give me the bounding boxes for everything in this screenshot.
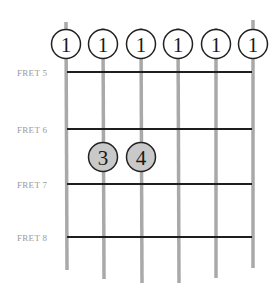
finger-number: 1 <box>173 33 184 57</box>
finger-number: 4 <box>136 146 147 170</box>
finger-marker-4: 4 <box>127 143 156 172</box>
finger-number: 1 <box>98 33 109 57</box>
finger-number: 3 <box>98 146 109 170</box>
fret-label-7: FRET 7 <box>17 180 48 190</box>
barre-marker-string-3: 1 <box>127 30 156 59</box>
finger-number: 1 <box>211 33 222 57</box>
finger-number: 1 <box>136 33 147 57</box>
chord-diagram: FRET 5 FRET 6 FRET 7 FRET 8 1 1 1 1 1 1 <box>0 0 280 294</box>
fret-label-5: FRET 5 <box>17 68 48 78</box>
barre-markers: 1 1 1 1 1 1 <box>52 30 268 59</box>
barre-marker-string-6: 1 <box>239 30 268 59</box>
finger-number: 1 <box>248 33 259 57</box>
fret-label-6: FRET 6 <box>17 125 48 135</box>
fret-label-8: FRET 8 <box>17 233 48 243</box>
fret-labels: FRET 5 FRET 6 FRET 7 FRET 8 <box>17 68 48 243</box>
string-4 <box>178 28 179 283</box>
finger-marker-3: 3 <box>89 143 118 172</box>
barre-marker-string-5: 1 <box>202 30 231 59</box>
barre-marker-string-1: 1 <box>52 30 81 59</box>
barre-marker-string-2: 1 <box>89 30 118 59</box>
barre-marker-string-4: 1 <box>164 30 193 59</box>
finger-markers: 3 4 <box>89 143 156 172</box>
finger-number: 1 <box>61 33 72 57</box>
